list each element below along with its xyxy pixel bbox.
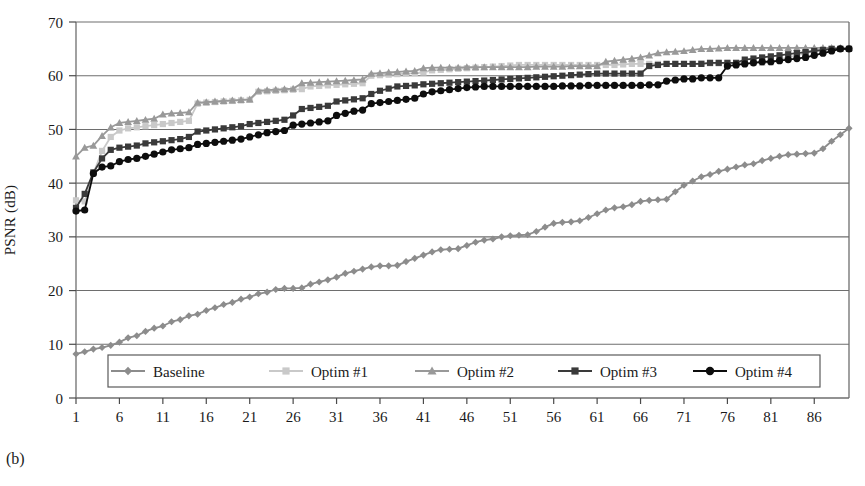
data-point-marker <box>186 118 192 124</box>
data-point-marker <box>203 140 210 147</box>
data-point-marker <box>72 350 79 357</box>
data-point-marker <box>324 276 331 283</box>
data-point-marker <box>177 136 183 142</box>
y-tick-label: 40 <box>48 176 63 192</box>
legend-label: Optim #2 <box>457 364 514 380</box>
data-point-marker <box>845 45 852 52</box>
data-point-marker <box>455 79 461 85</box>
data-point-marker <box>568 72 574 78</box>
data-point-marker <box>567 82 574 89</box>
data-point-marker <box>525 75 531 81</box>
figure-caption: (b) <box>6 450 25 468</box>
data-point-marker <box>524 83 531 90</box>
data-point-marker <box>316 104 322 110</box>
data-point-marker <box>160 121 166 127</box>
series-baseline <box>72 125 852 358</box>
y-tick-label: 10 <box>48 337 63 353</box>
data-point-marker <box>690 61 696 67</box>
data-point-marker <box>507 83 514 90</box>
data-point-marker <box>420 81 426 87</box>
data-point-marker <box>420 90 427 97</box>
data-point-marker <box>776 153 783 160</box>
data-point-marker <box>472 83 479 90</box>
data-point-marker <box>698 61 704 67</box>
data-point-marker <box>185 312 192 319</box>
data-point-marker <box>324 117 331 124</box>
data-point-marker <box>273 118 279 124</box>
data-point-marker <box>411 255 418 262</box>
data-point-marker <box>368 91 374 97</box>
data-point-marker <box>785 151 792 158</box>
data-point-marker <box>394 83 400 89</box>
data-point-marker <box>576 217 583 224</box>
data-point-marker <box>429 248 436 255</box>
data-point-marker <box>802 150 809 157</box>
data-point-marker <box>515 232 522 239</box>
data-point-marker <box>646 63 652 69</box>
data-point-marker <box>316 278 323 285</box>
data-point-marker <box>99 148 105 154</box>
data-point-marker <box>767 155 774 162</box>
data-point-marker <box>177 119 183 125</box>
data-point-marker <box>316 118 323 125</box>
data-point-marker <box>98 344 105 351</box>
data-point-marker <box>299 106 305 112</box>
data-point-marker <box>629 70 635 76</box>
data-point-marker <box>185 144 192 151</box>
data-point-marker <box>168 137 174 143</box>
data-point-marker <box>298 120 305 127</box>
data-point-marker <box>724 166 731 173</box>
data-point-marker <box>759 157 766 164</box>
data-point-marker <box>246 133 253 140</box>
data-point-marker <box>637 61 643 67</box>
data-point-marker <box>229 299 236 306</box>
data-point-marker <box>464 79 470 85</box>
data-point-marker <box>125 156 132 163</box>
data-point-marker <box>394 262 401 269</box>
data-point-marker <box>246 293 253 300</box>
data-point-marker <box>498 76 504 82</box>
data-point-marker <box>116 158 123 165</box>
data-point-marker <box>655 62 661 68</box>
data-point-marker <box>342 270 349 277</box>
data-point-marker <box>533 74 539 80</box>
data-point-marker <box>282 367 289 374</box>
data-point-marker <box>603 70 609 76</box>
data-point-marker <box>828 47 835 54</box>
data-point-marker <box>715 168 722 175</box>
data-point-marker <box>385 98 392 105</box>
data-point-marker <box>811 52 818 59</box>
data-point-marker <box>602 82 609 89</box>
data-point-marker <box>351 96 357 102</box>
data-point-marker <box>342 110 349 117</box>
data-point-marker <box>151 139 157 145</box>
data-point-marker <box>98 163 105 170</box>
data-point-marker <box>698 74 705 81</box>
data-point-marker <box>107 342 114 349</box>
x-tick-label: 76 <box>720 409 736 425</box>
data-point-marker <box>221 125 227 131</box>
data-point-marker <box>837 45 844 52</box>
data-point-marker <box>90 346 97 353</box>
data-point-marker <box>663 77 670 84</box>
data-point-marker <box>81 206 88 213</box>
data-point-marker <box>490 77 496 83</box>
data-point-marker <box>402 258 409 265</box>
data-point-marker <box>333 98 339 104</box>
data-point-marker <box>811 149 818 156</box>
data-point-marker <box>542 74 548 80</box>
data-point-marker <box>72 207 79 214</box>
data-point-marker <box>628 201 635 208</box>
data-point-marker <box>385 262 392 269</box>
data-point-marker <box>81 348 88 355</box>
data-point-marker <box>446 80 452 86</box>
data-point-marker <box>99 155 105 161</box>
data-point-marker <box>177 145 184 152</box>
data-point-marker <box>177 316 184 323</box>
data-point-marker <box>82 191 88 197</box>
data-point-marker <box>550 83 557 90</box>
data-point-marker <box>706 171 713 178</box>
chart-canvas: 0102030405060701611162126313641465156616… <box>0 0 865 445</box>
data-point-marker <box>238 123 244 129</box>
x-tick-label: 81 <box>763 409 778 425</box>
